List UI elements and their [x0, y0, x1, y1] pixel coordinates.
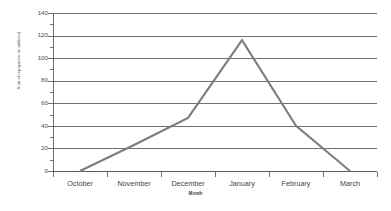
y-axis-tickmark	[48, 148, 53, 149]
x-axis-tick-label: March	[340, 179, 360, 188]
gridline	[53, 148, 377, 149]
gridline	[53, 126, 377, 127]
y-axis-tick-label: 40	[22, 123, 48, 129]
y-axis-tick-label: 20	[22, 145, 48, 151]
y-axis-minor-tickmark	[50, 47, 53, 48]
y-axis-tick-label: 80	[22, 77, 48, 83]
y-axis-tickmark	[48, 36, 53, 37]
y-axis-tick-label: 100	[22, 55, 48, 61]
y-axis-tickmark	[48, 103, 53, 104]
x-axis-tickmark	[323, 172, 324, 177]
x-axis-title: Month	[0, 191, 391, 196]
x-axis-tick-label: January	[229, 179, 255, 188]
y-axis-minor-tickmark	[50, 115, 53, 116]
gridline	[53, 36, 377, 37]
y-axis-minor-tickmark	[50, 137, 53, 138]
y-axis-tickmark	[48, 13, 53, 14]
x-axis-tickmark	[161, 172, 162, 177]
x-axis-tickmark	[215, 172, 216, 177]
gridline	[53, 103, 377, 104]
x-axis-tickmark	[269, 172, 270, 177]
y-axis-tick-label: 140	[22, 10, 48, 16]
y-axis-title: Sum of repayance (in millions)	[16, 6, 21, 116]
x-axis-tick-label: December	[171, 179, 204, 188]
line-chart: Sum of repayance (in millions) 020406080…	[0, 0, 391, 211]
x-axis-tickmark	[53, 172, 54, 177]
y-axis-minor-tickmark	[50, 92, 53, 93]
x-axis-tickmark	[377, 172, 378, 177]
gridline	[53, 58, 377, 59]
y-axis-minor-tickmark	[50, 69, 53, 70]
y-axis-tick-label: 60	[22, 100, 48, 106]
y-axis-tick-labels: 020406080100120140	[22, 0, 48, 211]
y-axis-tickmark	[48, 126, 53, 127]
x-axis-tickmark	[107, 172, 108, 177]
x-axis-tick-label: February	[282, 179, 311, 188]
gridline	[53, 81, 377, 82]
y-axis-tickmark	[48, 58, 53, 59]
gridline	[53, 13, 377, 14]
y-axis-tickmark	[48, 81, 53, 82]
y-axis-minor-tickmark	[50, 160, 53, 161]
plot-area	[53, 13, 377, 171]
x-axis-tick-label: November	[117, 179, 150, 188]
y-axis-tick-label: 120	[22, 32, 48, 38]
x-axis-tick-label: October	[67, 179, 93, 188]
y-axis-tick-label: 0	[22, 168, 48, 174]
y-axis-minor-tickmark	[50, 24, 53, 25]
